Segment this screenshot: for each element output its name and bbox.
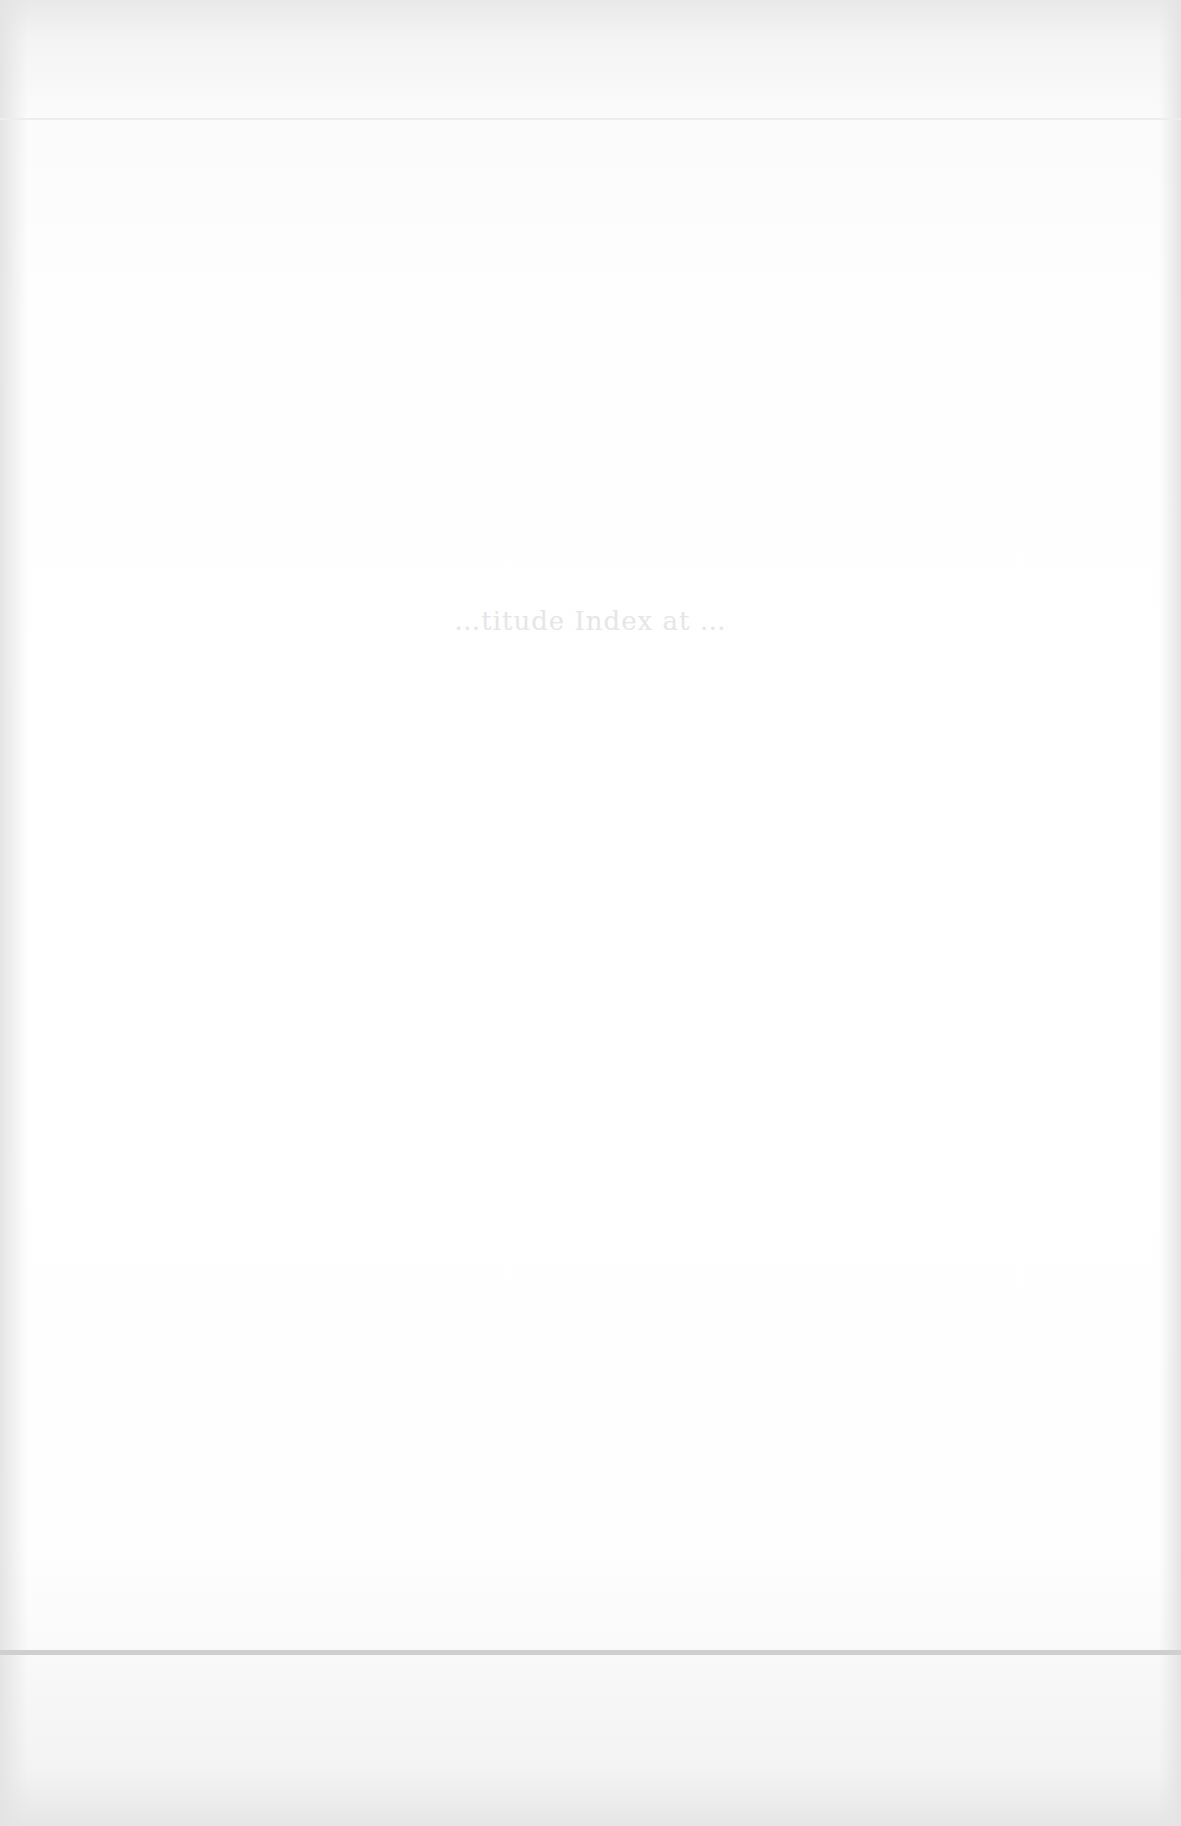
bottom-horizontal-rule xyxy=(0,1650,1181,1655)
page-edge-shadow-right xyxy=(1159,0,1181,1826)
page-edge-shadow-left xyxy=(0,0,28,1826)
page-heading: …titude Index at … xyxy=(0,606,1181,636)
top-faint-rule xyxy=(0,118,1181,120)
scanned-page: …titude Index at … xyxy=(0,0,1181,1826)
